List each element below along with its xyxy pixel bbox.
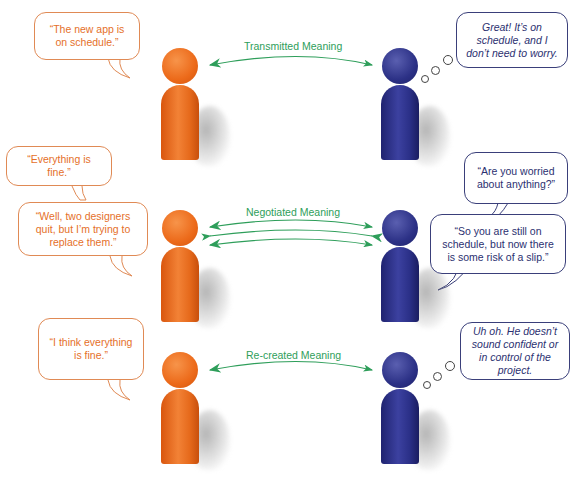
sender-figure xyxy=(158,48,202,198)
figure-head xyxy=(162,210,198,246)
thought-dot-medium xyxy=(433,372,442,381)
row-label-negotiated: Negotiated Meaning xyxy=(246,206,340,218)
receiver-thought-bubble: Uh oh. He doesn’t sound confident or in … xyxy=(460,322,570,380)
receiver-thought-bubble: Great! It’s on schedule, and I don’t nee… xyxy=(456,12,568,68)
sender-figure xyxy=(158,210,202,360)
receiver-figure xyxy=(378,352,422,478)
figure-body xyxy=(161,389,199,464)
figure-head xyxy=(382,352,418,388)
row-label-recreated: Re-created Meaning xyxy=(246,349,341,361)
transmitted-arrow xyxy=(210,57,372,66)
figure-head xyxy=(162,352,198,388)
receiver-figure xyxy=(378,48,422,198)
figure-body xyxy=(381,85,419,160)
sender-speech-bubble-1: “Everything is fine.” xyxy=(6,146,112,186)
receiver-speech-bubble-2: “So you are still on schedule, but now t… xyxy=(430,214,566,274)
figure-head xyxy=(382,210,418,246)
thought-dot-large xyxy=(445,361,455,371)
thought-dot-large xyxy=(443,55,453,65)
thought-dot-small xyxy=(423,381,431,389)
sender-speech-bubble-2: “Well, two designers quit, but I’m tryin… xyxy=(18,202,148,256)
thought-dot-small xyxy=(421,75,429,83)
sender-speech-bubble: “The new app is on schedule.” xyxy=(34,12,140,60)
negotiated-arrow-2 xyxy=(210,230,372,236)
figure-head xyxy=(382,48,418,84)
figure-body xyxy=(161,85,199,160)
figure-body xyxy=(161,247,199,322)
negotiated-arrow-3 xyxy=(210,239,372,245)
figure-head xyxy=(162,48,198,84)
recreated-arrow xyxy=(210,362,372,371)
sender-speech-bubble: “I think everything is fine.” xyxy=(38,318,144,380)
receiver-speech-bubble-1: “Are you worried about anything?” xyxy=(464,152,568,204)
sender-figure xyxy=(158,352,202,478)
row-label-transmitted: Transmitted Meaning xyxy=(244,40,342,52)
figure-body xyxy=(381,247,419,322)
figure-body xyxy=(381,389,419,464)
receiver-figure xyxy=(378,210,422,360)
thought-dot-medium xyxy=(431,66,440,75)
negotiated-arrow-1 xyxy=(210,220,372,227)
